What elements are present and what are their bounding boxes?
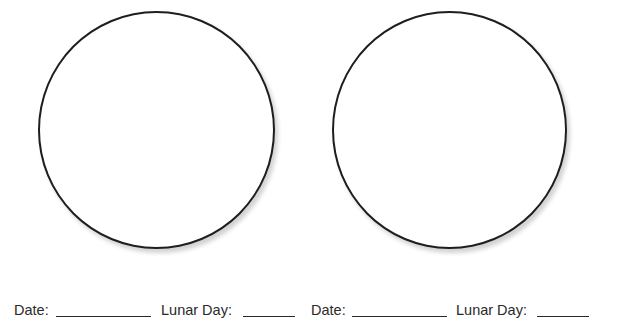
date-blank-1[interactable]	[56, 316, 151, 317]
lunar-day-label-2: Lunar Day:	[456, 300, 527, 320]
lunar-day-blank-2[interactable]	[537, 316, 589, 317]
moon-drawing-circle-2[interactable]	[332, 11, 567, 249]
date-blank-2[interactable]	[352, 316, 447, 317]
lunar-day-label-1: Lunar Day:	[161, 300, 232, 320]
observation-fields-row: Date: Lunar Day: Date: Lunar Day:	[0, 300, 617, 320]
date-label-1: Date:	[14, 300, 49, 320]
date-label-2: Date:	[311, 300, 346, 320]
moon-drawing-circle-1[interactable]	[38, 11, 275, 249]
lunar-day-blank-1[interactable]	[243, 316, 295, 317]
